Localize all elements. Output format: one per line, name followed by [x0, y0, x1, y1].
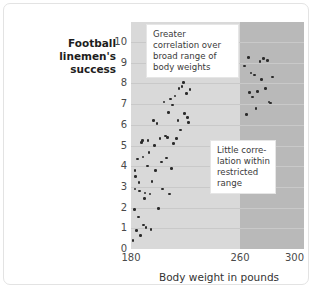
scatter-point — [152, 119, 155, 122]
scatter-point — [134, 175, 137, 178]
scatter-point — [182, 81, 185, 84]
gridline — [131, 228, 304, 229]
scatter-point — [142, 156, 145, 159]
scatter-point — [149, 193, 152, 196]
y-axis-tick-label: 4 — [105, 161, 127, 171]
scatter-point — [136, 158, 139, 161]
scatter-point — [132, 239, 135, 242]
scatter-point — [266, 59, 269, 62]
scatter-point — [168, 193, 171, 196]
y-axis-tick-label: 8 — [105, 78, 127, 88]
scatter-point — [146, 165, 149, 168]
broad-range-annotation: Greater correlation over broad range of … — [146, 24, 239, 78]
scatter-point — [154, 169, 157, 172]
scatter-point — [135, 229, 138, 232]
scatter-point — [138, 190, 141, 193]
scatter-point — [160, 161, 163, 164]
x-axis-tick-label: 180 — [111, 253, 151, 263]
scatter-point — [144, 192, 147, 195]
scatter-point — [161, 188, 164, 191]
scatter-point — [186, 116, 189, 119]
scatter-point — [151, 180, 154, 183]
scatter-point — [134, 188, 137, 191]
scatter-point — [141, 139, 144, 142]
gridline — [131, 83, 304, 84]
scatter-point — [157, 207, 160, 210]
scatter-point — [175, 137, 178, 140]
x-axis-tick-labels: 180260300 — [131, 253, 311, 267]
scatter-point — [177, 119, 180, 122]
scatter-point — [178, 87, 181, 90]
scatter-point — [145, 226, 148, 229]
scatter-point — [171, 104, 174, 107]
scatter-point — [167, 111, 170, 114]
scatter-point — [148, 151, 151, 154]
scatter-point — [256, 90, 259, 93]
scatter-point — [172, 142, 175, 145]
y-axis-tick-label: 3 — [105, 182, 127, 192]
scatter-point — [181, 85, 184, 88]
scatter-point — [179, 129, 182, 132]
scatter-point — [133, 208, 136, 211]
scatter-point — [134, 169, 137, 172]
x-axis-tick-label: 300 — [274, 253, 314, 263]
scatter-point — [139, 234, 142, 237]
gridline — [131, 104, 304, 105]
y-axis-tick-label: 7 — [105, 99, 127, 109]
scatter-point — [260, 78, 263, 81]
scatter-point — [143, 197, 146, 200]
scatter-point — [189, 88, 192, 91]
scatter-point — [255, 107, 258, 110]
scatter-point — [159, 137, 162, 140]
y-axis-tick-label: 9 — [105, 58, 127, 68]
y-axis-tick-label: 5 — [105, 141, 127, 151]
y-axis-tick-label: 2 — [105, 203, 127, 213]
scatter-point — [137, 216, 140, 219]
scatter-point — [185, 92, 188, 95]
scatter-point — [163, 101, 166, 104]
scatter-point — [259, 60, 262, 63]
x-axis-title: Body weight in pounds — [124, 271, 314, 283]
scatter-point — [262, 57, 265, 60]
scatter-point — [166, 136, 169, 139]
scatter-point — [174, 95, 177, 98]
figure-card: Football linemen's success 012345678910 … — [3, 3, 309, 285]
scatter-point — [138, 181, 141, 184]
y-axis-tick-label: 10 — [105, 37, 127, 47]
scatter-point — [169, 98, 172, 101]
scatter-point — [153, 144, 156, 147]
scatter-point — [165, 157, 168, 160]
gridline — [131, 125, 304, 126]
x-axis-tick-label: 260 — [220, 253, 260, 263]
scatter-point — [247, 56, 250, 59]
scatter-point — [243, 65, 246, 68]
scatter-point — [183, 112, 186, 115]
restricted-range-annotation: Little corre-lation within restrictedran… — [210, 140, 276, 194]
scatter-point — [264, 87, 267, 90]
scatter-point — [187, 121, 190, 124]
y-axis-tick-labels: 012345678910 — [103, 22, 127, 249]
scatter-point — [150, 228, 153, 231]
y-axis-tick-label: 1 — [105, 223, 127, 233]
scatter-point — [245, 113, 248, 116]
y-axis-title: Football linemen's success — [16, 37, 116, 76]
y-axis-tick-label: 6 — [105, 120, 127, 130]
scatter-point — [147, 139, 150, 142]
scatter-point — [170, 167, 173, 170]
